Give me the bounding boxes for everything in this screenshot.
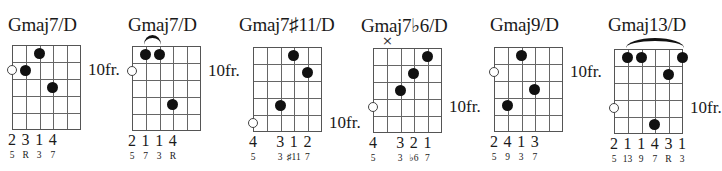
interval-label: R — [164, 151, 182, 161]
fretboard-grid — [373, 48, 442, 133]
interval-label: 5 — [244, 152, 262, 162]
open-string-circle — [248, 118, 258, 128]
fret-line — [133, 97, 200, 98]
chord-name: Gmaj7/D — [8, 14, 77, 36]
finger-number: 1 — [675, 136, 689, 152]
string-line — [508, 48, 509, 131]
finger-number: 4 — [166, 133, 180, 149]
fret-line — [615, 66, 682, 67]
string-line — [173, 47, 174, 130]
string-line — [308, 48, 309, 131]
finger-number: 1 — [287, 134, 301, 150]
finger-number: 2 — [487, 134, 501, 150]
string-line — [67, 46, 68, 129]
barre-arc — [626, 38, 684, 48]
fretboard-grid — [253, 47, 322, 132]
interval-label: 5 — [364, 153, 382, 163]
finger-number: 3 — [273, 134, 287, 150]
finger-number: 1 — [139, 133, 153, 149]
chord-name: Gmaj13/D — [608, 14, 686, 36]
finger-dot — [140, 49, 151, 60]
fret-position-label: 10fr. — [690, 98, 722, 118]
fret-line — [615, 117, 682, 118]
chord-name: Gmaj7/D — [128, 14, 197, 36]
finger-dot — [275, 100, 286, 111]
finger-number: 3 — [661, 136, 675, 152]
fret-line — [254, 64, 321, 65]
fret-line — [495, 98, 562, 99]
string-line — [414, 49, 415, 132]
finger-dot — [636, 52, 647, 63]
finger-number: 1 — [514, 134, 528, 150]
finger-number: 2 — [300, 134, 314, 150]
string-line — [267, 48, 268, 131]
finger-number: 2 — [125, 133, 139, 149]
chord-name: Gmaj7♯11/D — [239, 14, 335, 36]
finger-number: 2 — [607, 136, 621, 152]
string-line — [26, 46, 27, 129]
fret-line — [13, 96, 80, 97]
interval-label: 7 — [526, 152, 544, 162]
fret-line — [254, 81, 321, 82]
finger-number: 3 — [393, 135, 407, 151]
fret-line — [495, 115, 562, 116]
fret-position-label: 10fr. — [208, 61, 240, 81]
interval-label: 3 — [673, 154, 691, 164]
finger-number: 1 — [420, 135, 434, 151]
open-string-circle — [609, 103, 619, 113]
finger-dot — [302, 67, 313, 78]
finger-dot — [516, 50, 527, 61]
fret-line — [13, 79, 80, 80]
fret-position-label: 10fr. — [329, 113, 361, 133]
fret-line — [374, 82, 441, 83]
chord-name: Gmaj9/D — [490, 14, 559, 36]
finger-dot — [663, 69, 674, 80]
fret-line — [495, 81, 562, 82]
fret-position-label: 10fr. — [570, 62, 602, 82]
finger-number: 4 — [501, 134, 515, 150]
fret-line — [133, 63, 200, 64]
fret-line — [374, 116, 441, 117]
fret-line — [374, 65, 441, 66]
finger-number: 4 — [648, 136, 662, 152]
finger-dot — [622, 52, 633, 63]
fret-line — [495, 64, 562, 65]
string-line — [669, 50, 670, 133]
fret-line — [615, 83, 682, 84]
string-line — [187, 47, 188, 130]
finger-number: 3 — [528, 134, 542, 150]
interval-label: 7 — [44, 150, 62, 160]
finger-number: 1 — [152, 133, 166, 149]
muted-string-icon: × — [382, 34, 393, 47]
fret-position-label: 10fr. — [88, 60, 120, 80]
finger-number: 2 — [5, 132, 19, 148]
finger-number: 3 — [19, 132, 33, 148]
chord-diagram: Gmaj13/D10fr.21143151397R3 — [0, 0, 1, 1]
string-line — [549, 48, 550, 131]
fret-line — [615, 100, 682, 101]
string-line — [281, 48, 282, 131]
finger-number: 1 — [634, 136, 648, 152]
finger-dot — [408, 68, 419, 79]
finger-number: 1 — [32, 132, 46, 148]
barre-arc — [144, 35, 162, 45]
interval-label: 7 — [418, 153, 436, 163]
finger-dot — [529, 84, 540, 95]
finger-number: 4 — [246, 134, 260, 150]
fret-line — [133, 80, 200, 81]
finger-number: 4 — [46, 132, 60, 148]
finger-number: 4 — [366, 135, 380, 151]
fret-line — [254, 98, 321, 99]
interval-label: 7 — [298, 152, 316, 162]
open-string-circle — [368, 102, 378, 112]
finger-dot — [154, 49, 165, 60]
string-line — [387, 49, 388, 132]
finger-dot — [395, 85, 406, 96]
finger-number: 2 — [407, 135, 421, 151]
fret-line — [254, 115, 321, 116]
fret-position-label: 10fr. — [449, 97, 481, 117]
fret-line — [13, 62, 80, 63]
fret-line — [133, 114, 200, 115]
finger-number: 1 — [621, 136, 635, 152]
finger-dot — [422, 51, 433, 62]
